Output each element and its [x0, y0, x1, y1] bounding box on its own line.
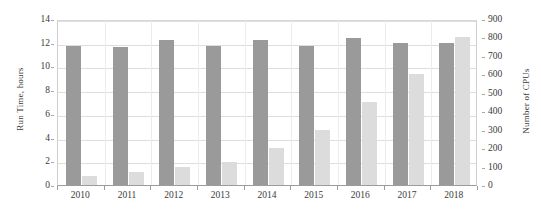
y-axis-right-tick-label: 600	[488, 69, 518, 79]
category-separator	[198, 21, 199, 185]
y-axis-right-tickmark	[482, 168, 485, 169]
x-axis-tickmark	[384, 186, 385, 190]
bar-runtime	[439, 43, 454, 185]
y-axis-right-tick-label: 700	[488, 51, 518, 61]
category-separator	[151, 21, 152, 185]
x-axis-tickmark	[290, 186, 291, 190]
bar-cpus	[455, 37, 470, 185]
category-separator	[245, 21, 246, 185]
bar-runtime	[253, 40, 268, 185]
y-axis-left-tickmark	[51, 115, 54, 116]
y-axis-left-tickmark	[51, 162, 54, 163]
bar-cpus	[82, 176, 97, 185]
y-axis-right-tickmark	[482, 149, 485, 150]
y-axis-right-ticks: 0100200300400500600700800900	[482, 0, 516, 214]
category-separator	[105, 21, 106, 185]
x-axis-tick-label: 2010	[57, 190, 104, 200]
y-axis-left-tick-label: 2	[24, 156, 50, 166]
x-axis-ticks: 201020112012201320142015201620172018	[57, 190, 477, 210]
y-axis-right-tick-label: 800	[488, 32, 518, 42]
x-axis-tickmark	[197, 186, 198, 190]
y-axis-right-tick-label: 900	[488, 14, 518, 24]
bar-runtime	[113, 47, 128, 185]
y-axis-left-tick-label: 12	[24, 38, 50, 48]
x-axis-tickmark	[430, 186, 431, 190]
category-separator	[291, 21, 292, 185]
y-axis-left-tick-label: 8	[24, 85, 50, 95]
bar-cpus	[175, 167, 190, 185]
x-axis-tickmark	[477, 186, 478, 190]
y-axis-left-ticks: 02468101214	[20, 0, 50, 214]
y-axis-left-tickmark	[51, 186, 54, 187]
category-separator	[338, 21, 339, 185]
x-axis-tick-label: 2011	[104, 190, 151, 200]
y-axis-right-tickmark	[482, 186, 485, 187]
bar-cpus	[222, 162, 237, 185]
y-axis-right-tick-label: 300	[488, 125, 518, 135]
x-axis-tickmark	[57, 186, 58, 190]
x-axis-tickmark	[150, 186, 151, 190]
chart-figure: Run Time, hours Number of CPUs 024681012…	[0, 0, 541, 214]
bar-runtime	[299, 46, 314, 185]
bar-cpus	[315, 130, 330, 185]
plot-area	[57, 20, 477, 186]
bar-cpus	[362, 102, 377, 185]
y-axis-right-tickmark	[482, 75, 485, 76]
category-separator	[385, 21, 386, 185]
bar-runtime	[393, 43, 408, 185]
y-axis-left-tick-label: 10	[24, 61, 50, 71]
x-axis-tickmark	[337, 186, 338, 190]
x-axis-tick-label: 2016	[337, 190, 384, 200]
x-axis-tickmark	[244, 186, 245, 190]
y-axis-right-tickmark	[482, 131, 485, 132]
bar-runtime	[159, 40, 174, 185]
bar-runtime	[66, 46, 81, 185]
x-axis-tickmark	[104, 186, 105, 190]
y-axis-left-tickmark	[51, 67, 54, 68]
y-axis-right-tickmark	[482, 38, 485, 39]
bar-cpus	[269, 148, 284, 185]
y-axis-left-tickmark	[51, 44, 54, 45]
bar-cpus	[409, 74, 424, 185]
y-axis-right-tick-label: 100	[488, 162, 518, 172]
y-axis-left-tick-label: 0	[24, 180, 50, 190]
y-axis-left-tick-label: 6	[24, 109, 50, 119]
y-axis-right-tick-label: 200	[488, 143, 518, 153]
y-axis-right-tickmark	[482, 94, 485, 95]
x-axis-tick-label: 2014	[244, 190, 291, 200]
y-axis-right-tickmark	[482, 20, 485, 21]
y-axis-left-tickmark	[51, 91, 54, 92]
y-axis-left-tick-label: 14	[24, 14, 50, 24]
y-axis-right-title: Number of CPUs	[521, 41, 531, 161]
y-axis-right-tick-label: 500	[488, 88, 518, 98]
x-axis-tick-label: 2013	[197, 190, 244, 200]
y-axis-right-tickmark	[482, 57, 485, 58]
x-axis-tick-label: 2012	[150, 190, 197, 200]
gridline	[58, 21, 476, 22]
bar-runtime	[346, 38, 361, 185]
x-axis-tick-label: 2017	[384, 190, 431, 200]
y-axis-right-tick-label: 0	[488, 180, 518, 190]
bar-cpus	[129, 172, 144, 185]
y-axis-left-tickmark	[51, 139, 54, 140]
y-axis-right-tickmark	[482, 112, 485, 113]
y-axis-left-tickmark	[51, 20, 54, 21]
x-axis-tick-label: 2018	[430, 190, 477, 200]
category-separator	[431, 21, 432, 185]
y-axis-right-tick-label: 400	[488, 106, 518, 116]
x-axis-tick-label: 2015	[290, 190, 337, 200]
bar-runtime	[206, 46, 221, 185]
y-axis-left-tick-label: 4	[24, 133, 50, 143]
